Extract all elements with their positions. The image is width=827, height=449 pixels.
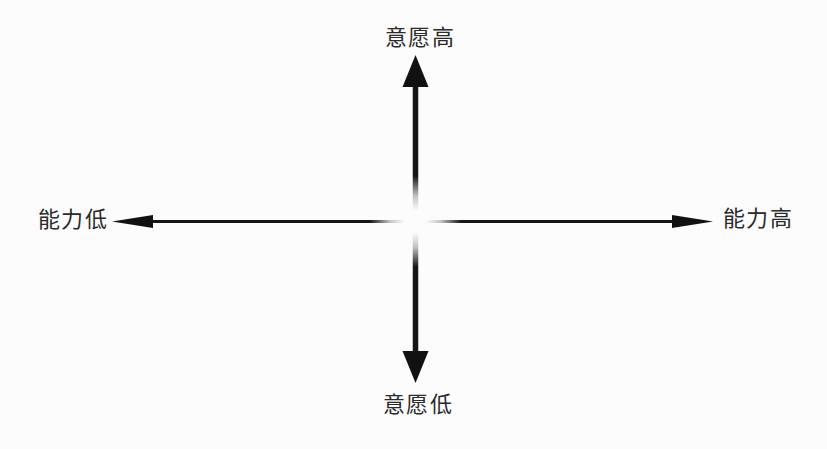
arrow-right-icon <box>672 215 713 228</box>
axis-label-willingness-low: 意愿低 <box>383 394 454 416</box>
axes-graphic <box>0 0 827 449</box>
arrow-up-icon <box>403 55 429 87</box>
quadrant-diagram: 意愿高 意愿低 能力低 能力高 <box>0 0 827 449</box>
arrow-down-icon <box>403 351 429 383</box>
axis-label-ability-high: 能力高 <box>723 208 794 230</box>
axis-label-willingness-high: 意愿高 <box>385 27 456 49</box>
arrow-left-icon <box>112 215 153 228</box>
axis-label-ability-low: 能力低 <box>38 209 109 231</box>
